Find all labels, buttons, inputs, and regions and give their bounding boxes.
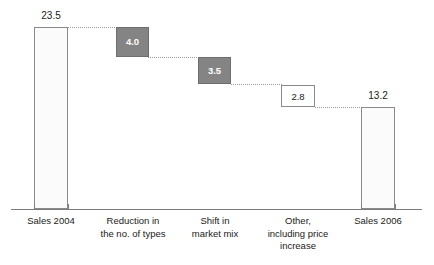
waterfall-connector-line bbox=[231, 84, 282, 85]
category-label: Other, including price increase bbox=[255, 215, 341, 253]
value-label-inside: 2.8 bbox=[281, 92, 315, 102]
category-label: Sales 2006 bbox=[335, 215, 421, 228]
category-axis-line bbox=[11, 209, 422, 210]
axis-tick bbox=[395, 204, 396, 209]
waterfall-connector-line bbox=[68, 27, 117, 28]
value-label-above: 13.2 bbox=[355, 91, 401, 101]
category-label: Shift in market mix bbox=[172, 215, 258, 240]
axis-tick bbox=[34, 204, 35, 209]
waterfall-connector-line bbox=[315, 107, 362, 108]
waterfall-connector-line bbox=[148, 57, 199, 58]
value-label-above: 23.5 bbox=[28, 11, 74, 21]
value-label-inside: 3.5 bbox=[198, 66, 231, 76]
bar-sales-2006 bbox=[361, 107, 395, 209]
category-label: Reduction in the no. of types bbox=[90, 215, 176, 240]
value-label-inside: 4.0 bbox=[116, 37, 149, 47]
bar-sales-2004 bbox=[34, 27, 68, 209]
axis-tick bbox=[68, 204, 69, 209]
category-label: Sales 2004 bbox=[8, 215, 94, 228]
plot-area: 23.54.03.52.813.2 Sales 2004Reduction in… bbox=[0, 0, 434, 265]
waterfall-chart: 23.54.03.52.813.2 Sales 2004Reduction in… bbox=[0, 0, 434, 265]
axis-tick bbox=[361, 204, 362, 209]
